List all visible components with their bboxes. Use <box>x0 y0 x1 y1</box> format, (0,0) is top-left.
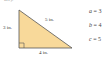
right-triangle-figure: ure). 5 in. 3 in. 4 in. a = 3 b = 4 c = … <box>0 0 111 60</box>
equation-c: c = 5 <box>89 36 101 42</box>
left-leg-label: 3 in. <box>3 25 12 30</box>
equation-operator: = <box>94 8 97 14</box>
equation-value: 5 <box>98 36 101 42</box>
equation-variable: a <box>89 8 92 14</box>
equation-variable: b <box>89 22 92 28</box>
triangle-shape <box>19 10 72 48</box>
equation-b: b = 4 <box>89 22 101 28</box>
equation-a: a = 3 <box>89 8 101 14</box>
equation-operator: = <box>94 22 97 28</box>
equation-value: 4 <box>98 22 101 28</box>
equation-operator: = <box>93 36 96 42</box>
equation-value: 3 <box>98 8 101 14</box>
hypotenuse-label: 5 in. <box>45 17 54 22</box>
equation-variable: c <box>89 36 92 42</box>
bottom-leg-label: 4 in. <box>39 50 48 55</box>
